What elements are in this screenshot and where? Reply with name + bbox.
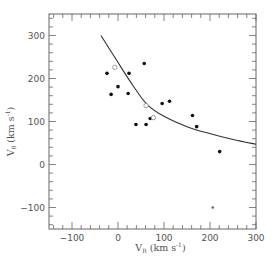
x-label-close: ) — [182, 242, 186, 253]
y-axis-label: Vθ(km s-1) — [4, 107, 17, 157]
filled-data-point — [126, 92, 130, 96]
filled-data-point — [144, 123, 148, 127]
filled-data-point — [160, 102, 164, 106]
open-data-point — [113, 65, 117, 69]
tick-labels: −1000100200300−1000100200300 — [20, 31, 265, 244]
y-label-main: V — [5, 149, 16, 157]
x-label-main: V — [134, 242, 142, 253]
y-tick-label: 300 — [28, 31, 45, 41]
y-tick-label: 200 — [28, 74, 45, 84]
scatter-chart: −1000100200300−1000100200300 VR(km s-1) … — [0, 0, 277, 264]
filled-data-point — [195, 125, 199, 129]
filled-data-point — [218, 150, 222, 154]
axis-ticks — [49, 14, 256, 229]
x-tick-label: −100 — [60, 233, 85, 243]
filled-data-point — [116, 85, 120, 89]
filled-data-point — [127, 72, 131, 76]
y-tick-label: 0 — [39, 160, 45, 170]
x-tick-label: 0 — [115, 233, 121, 243]
y-tick-label: −100 — [20, 203, 45, 213]
small-data-point — [211, 206, 214, 209]
x-axis-label: VR(km s-1) — [134, 241, 185, 254]
x-tick-label: 200 — [201, 233, 218, 243]
x-label-sub: R — [142, 247, 147, 254]
x-label-unit: (km s — [150, 242, 176, 253]
y-label-unit: (km s — [5, 116, 16, 142]
filled-data-point — [191, 114, 195, 118]
y-tick-label: 100 — [28, 117, 45, 127]
y-label-sub: θ — [10, 145, 17, 149]
open-data-point — [151, 115, 155, 119]
filled-data-point — [142, 62, 146, 66]
x-tick-label: 300 — [247, 233, 264, 243]
data-points — [105, 62, 221, 209]
filled-data-point — [109, 93, 113, 97]
y-label-close: ) — [5, 107, 16, 111]
filled-data-point — [134, 123, 138, 127]
open-data-point — [144, 103, 148, 107]
filled-data-point — [105, 72, 109, 76]
model-curve — [101, 36, 256, 145]
plot-frame — [49, 14, 256, 229]
filled-data-point — [168, 99, 172, 103]
